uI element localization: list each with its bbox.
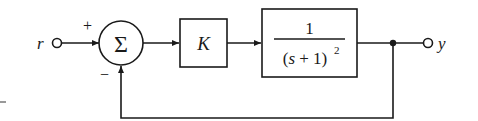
output-terminal (424, 39, 433, 48)
gain-block: K (180, 19, 227, 67)
input-terminal (53, 39, 62, 48)
plant-denominator: (s + 1) (283, 49, 328, 68)
gain-label: K (196, 33, 211, 54)
summing-junction: Σ (99, 21, 143, 65)
plant-exponent: 2 (334, 44, 340, 56)
sigma-symbol: Σ (114, 31, 128, 57)
input-label: r (37, 34, 44, 53)
block-diagram: r + − Σ K 1 (s + 1) 2 y (0, 0, 478, 121)
plant-block: 1 (s + 1) 2 (262, 9, 357, 77)
feedback-path (121, 43, 393, 118)
output-label: y (436, 34, 446, 53)
plus-sign: + (83, 17, 92, 34)
minus-sign: − (100, 66, 109, 83)
plant-numerator: 1 (305, 19, 314, 38)
